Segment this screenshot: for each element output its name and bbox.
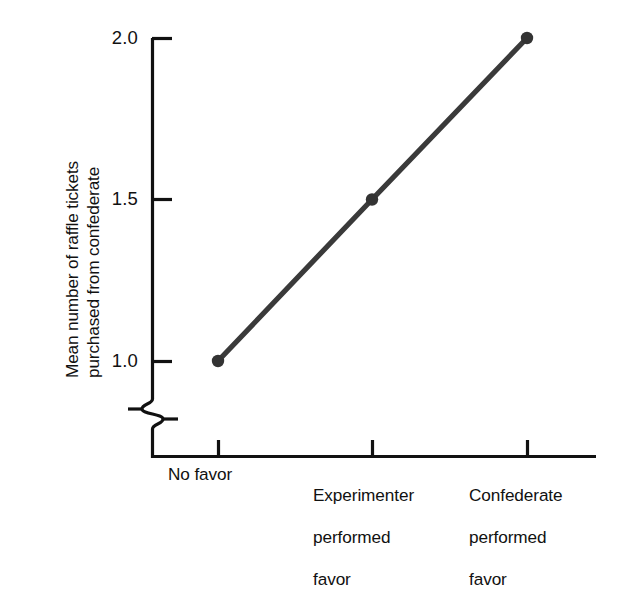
x-category-label-experimenter-line-2: performed [313, 527, 414, 548]
x-category-label-confederate-line-2: performed [469, 527, 563, 548]
data-point-experimenter-performed-favor [366, 193, 378, 205]
x-category-label-confederate-line-1: Confederate [469, 485, 563, 506]
x-category-label-confederate-line-3: favor [469, 569, 563, 589]
x-category-label-confederate: Confederate performed favor [469, 464, 563, 589]
x-category-label-experimenter-line-3: favor [313, 569, 414, 589]
y-axis-break-symbol [142, 399, 163, 429]
x-category-label-experimenter-line-1: Experimenter [313, 485, 414, 506]
data-point-confederate-performed-favor [521, 32, 533, 44]
x-category-label-no-favor: No favor [168, 464, 232, 485]
x-category-label-experimenter: Experimenter performed favor [313, 464, 414, 589]
data-point-no-favor [212, 355, 224, 367]
